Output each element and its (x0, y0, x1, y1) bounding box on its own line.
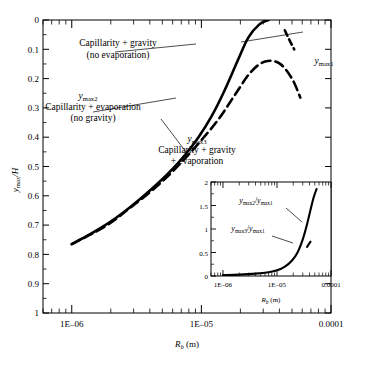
x-axis-ticks: 1E–061E–050.0001 (43, 20, 343, 329)
y-tick-label: 0.7 (28, 220, 40, 230)
y-tick-label: 0.1 (28, 45, 39, 55)
inset-x-tick-label: 1E–05 (268, 281, 287, 289)
inset-x-tick-label: 0.0001 (321, 281, 341, 289)
figure-container: 10.90.80.70.60.50.40.30.20.101E–061E–050… (0, 0, 374, 369)
y-tick-label: 0.9 (28, 279, 40, 289)
inset-x-tick-label: 1E–06 (214, 281, 233, 289)
y-axis-title: ymax/H (10, 167, 21, 193)
inset-y-tick-label: 2 (205, 179, 209, 187)
inset-y-tick-label: 1.5 (199, 203, 208, 211)
annotation-capge-line1: Capillarity + gravity (158, 145, 236, 155)
y-tick-label: 0.4 (28, 132, 40, 142)
inset-y-tick-label: 0.5 (199, 250, 208, 258)
x-tick-label: 1E–05 (190, 319, 214, 329)
annotation-capevap-line1: Capillarity + evaporation (45, 102, 141, 112)
series-y-max3 (285, 30, 294, 49)
y-tick-label: 0.2 (28, 74, 39, 84)
label-ymax1: ymax1 (314, 56, 334, 67)
annotation-capevap-line2: (no gravity) (70, 113, 115, 124)
y-tick-label: 0 (35, 15, 40, 25)
y-tick-label: 0.8 (28, 250, 40, 260)
y-tick-label: 1 (35, 308, 40, 318)
y-tick-label: 0.6 (28, 191, 40, 201)
y-tick-label: 0.5 (28, 162, 40, 172)
annotations-group: Capillarity + gravity(no evaporation)yma… (45, 38, 333, 166)
annotation-capgrav-line2: (no evaporation) (86, 50, 149, 61)
y-tick-label: 0.3 (28, 103, 40, 113)
x-axis-title: Rb (m) (174, 339, 199, 350)
inset-y-tick-label: 1 (205, 226, 209, 234)
annotation-capgrav-line1: Capillarity + gravity (79, 38, 157, 48)
inset-y-tick-label: 0 (205, 273, 209, 281)
chart-svg: 10.90.80.70.60.50.40.30.20.101E–061E–050… (0, 0, 374, 369)
label-ymax2: ymax2 (78, 91, 98, 102)
inset-group: 00.511.521E–061E–050.0001Rb (m)ymax2/yma… (199, 179, 341, 305)
inset-x-axis-title: Rb (m) (261, 296, 282, 305)
x-tick-label: 1E–06 (60, 319, 84, 329)
annotation-capge-line2: + evaporation (171, 156, 224, 166)
x-tick-label: 0.0001 (319, 319, 344, 329)
